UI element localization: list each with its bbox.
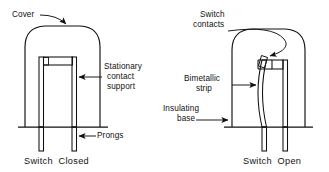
- switch-diagram-figure: Cover Stationary contact support Prongs …: [0, 0, 329, 172]
- label-cover: Cover: [12, 10, 34, 20]
- label-bimetallic-strip-line1: Bimetallic: [184, 74, 220, 84]
- contact-pair: [44, 58, 49, 66]
- label-insulating-base-line2: base: [177, 114, 195, 124]
- label-switch-contacts-line2: contacts: [193, 20, 224, 30]
- contact-pair: [259, 56, 268, 69]
- caption-switch-open: Switch Open: [243, 156, 301, 166]
- label-prongs: Prongs: [97, 131, 124, 141]
- prong-left: [39, 127, 44, 151]
- label-stationary-contact-support-line2: contact: [107, 72, 134, 82]
- right-panel-open-switch: [196, 29, 313, 151]
- dome-cover: [232, 29, 305, 127]
- bimetal-strip: [258, 60, 267, 127]
- label-stationary-contact-support-line1: Stationary: [104, 62, 142, 72]
- contact-support-post: [283, 60, 288, 127]
- prong-left: [262, 127, 267, 151]
- label-stationary-contact-support-line3: support: [107, 82, 135, 92]
- prong-right: [283, 127, 288, 151]
- stationary-contact-arm: [272, 60, 283, 69]
- label-switch-contacts-line1: Switch: [200, 10, 225, 20]
- dome-cover: [25, 26, 100, 127]
- switch-contacts-leader: [228, 29, 286, 56]
- label-insulating-base-line1: Insulating: [163, 104, 199, 114]
- caption-switch-closed: Switch Closed: [24, 156, 89, 166]
- bimetal-strip: [39, 57, 44, 127]
- contact-support-post: [72, 57, 77, 127]
- prong-right: [72, 127, 77, 151]
- label-bimetallic-strip-line2: strip: [196, 84, 212, 94]
- diagram-canvas: [0, 0, 329, 172]
- left-panel-closed-switch: [18, 15, 108, 151]
- cover-leader: [40, 15, 66, 24]
- stationary-contact-arm: [44, 57, 73, 65]
